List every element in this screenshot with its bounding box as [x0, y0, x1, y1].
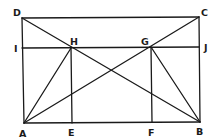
- point-label-h: H: [70, 36, 78, 47]
- point-label-e: E: [68, 127, 75, 138]
- diagram-labels: DCIHGJAEFB: [13, 7, 208, 139]
- point-label-d: D: [13, 7, 21, 18]
- segment-ab: [24, 122, 200, 123]
- segment-gf: [151, 47, 152, 122]
- geometry-diagram: DCIHGJAEFB: [0, 0, 221, 140]
- segment-ac: [24, 17, 199, 123]
- segment-he: [71, 48, 72, 123]
- diagram-segments: [22, 17, 200, 123]
- point-label-j: J: [203, 42, 208, 53]
- segment-gb: [151, 47, 200, 122]
- point-label-a: A: [19, 128, 27, 139]
- segment-cb: [199, 17, 200, 122]
- segment-dc: [22, 17, 199, 18]
- point-label-b: B: [196, 126, 203, 137]
- segment-ah: [24, 48, 71, 123]
- segment-da: [22, 18, 24, 123]
- segment-ij: [22, 47, 199, 48]
- point-label-i: I: [14, 43, 18, 54]
- point-label-c: C: [201, 7, 208, 18]
- point-label-f: F: [148, 127, 155, 138]
- point-label-g: G: [141, 36, 149, 47]
